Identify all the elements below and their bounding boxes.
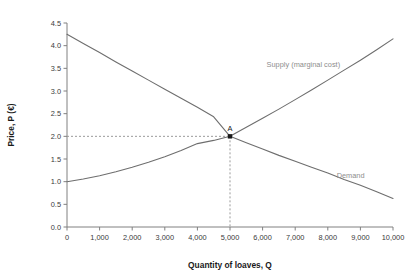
equilibrium-point-marker <box>228 134 232 138</box>
curve-supply-marginal-cost <box>67 39 393 182</box>
y-tick-label: 3.5 <box>51 64 61 73</box>
y-tick-label: 1.5 <box>51 155 61 164</box>
x-tick-label: 2,000 <box>123 233 142 242</box>
y-tick-label: 1.0 <box>51 177 61 186</box>
x-tick-label: 3,000 <box>156 233 175 242</box>
equilibrium-point-label: A <box>228 124 233 133</box>
x-tick-label: 0 <box>65 233 69 242</box>
curve-label-demand: Demand <box>337 171 365 180</box>
y-tick-label: 4.0 <box>51 41 61 50</box>
y-tick-label: 3.0 <box>51 87 61 96</box>
x-tick-label: 10,000 <box>382 233 405 242</box>
curve-label-supply-marginal-cost: Supply (marginal cost) <box>267 60 341 69</box>
x-tick-label: 5,000 <box>221 233 240 242</box>
x-tick-label: 4,000 <box>188 233 207 242</box>
y-tick-label: 2.5 <box>51 109 61 118</box>
y-axis-title: Price, P (€) <box>6 103 16 146</box>
y-tick-label: 0.5 <box>51 200 61 209</box>
x-tick-label: 6,000 <box>253 233 272 242</box>
x-tick-label: 9,000 <box>351 233 370 242</box>
x-axis-title: Quantity of loaves, Q <box>188 260 272 270</box>
x-tick-label: 1,000 <box>90 233 109 242</box>
chart-canvas: 0.00.51.01.52.02.53.03.54.04.501,0002,00… <box>0 0 414 277</box>
x-tick-label: 7,000 <box>286 233 305 242</box>
y-tick-label: 2.0 <box>51 132 61 141</box>
x-tick-label: 8,000 <box>319 233 338 242</box>
y-tick-label: 0.0 <box>51 223 61 232</box>
supply-demand-chart: 0.00.51.01.52.02.53.03.54.04.501,0002,00… <box>0 0 414 277</box>
y-tick-label: 4.5 <box>51 19 61 28</box>
